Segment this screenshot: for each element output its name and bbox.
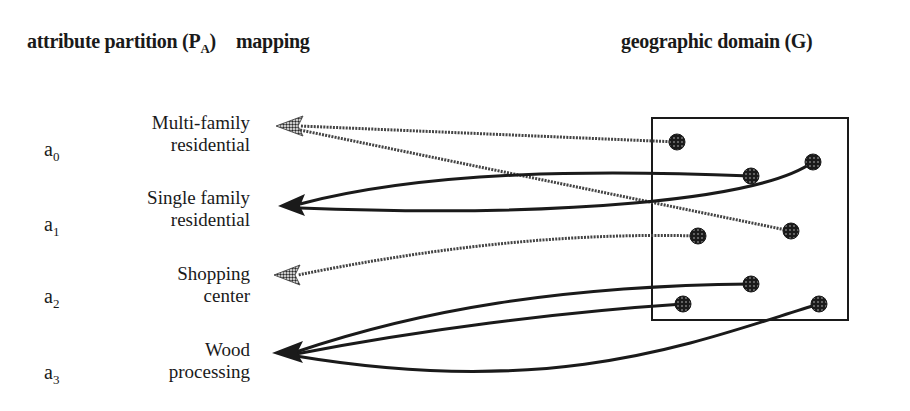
geo-point: [805, 154, 821, 170]
geo-point: [783, 223, 799, 239]
geo-point: [743, 276, 759, 292]
arrowhead-a0: [276, 116, 303, 136]
mapping-diagram: [0, 0, 910, 411]
solid-mapping-lines: [296, 162, 819, 372]
arrowhead-a2: [274, 265, 300, 285]
geo-point: [690, 228, 706, 244]
geo-point: [675, 296, 691, 312]
dotted-mapping-lines: [298, 126, 791, 275]
geo-point: [669, 134, 685, 150]
geo-point: [811, 296, 827, 312]
geo-point: [743, 168, 759, 184]
